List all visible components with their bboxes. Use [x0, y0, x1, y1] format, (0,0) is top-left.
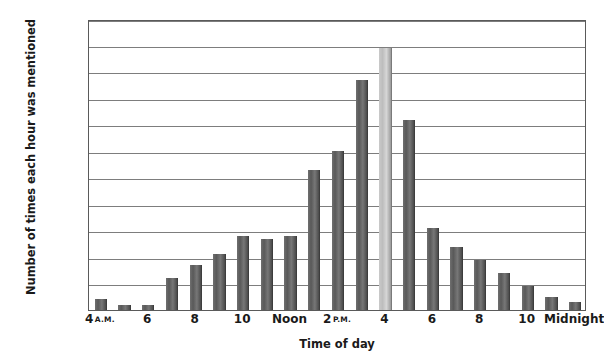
bar: [332, 151, 344, 310]
bar: [142, 305, 154, 310]
x-axis-tick-label-text: 10: [234, 312, 251, 326]
bars-group: [89, 21, 585, 310]
x-axis-tick-label-meridiem: A.M.: [95, 315, 115, 324]
bar: [427, 228, 439, 310]
bar: [284, 236, 296, 310]
x-axis-tick-label: 8: [475, 313, 483, 325]
x-axis-tick-label: 10: [234, 313, 251, 325]
x-axis-tick-label: 2P.M.: [323, 313, 351, 325]
bar: [474, 260, 486, 310]
x-axis-tick-label-text: Midnight: [544, 312, 604, 326]
x-axis-tick-label: 8: [191, 313, 199, 325]
x-axis-tick-label-text: 2: [323, 312, 331, 326]
x-axis-tick-label: Noon: [272, 313, 307, 325]
bar: [166, 278, 178, 310]
bar: [569, 302, 581, 310]
bar: [190, 265, 202, 310]
x-axis-tick-label: 4: [380, 313, 388, 325]
bar: [379, 48, 391, 310]
bar: [450, 247, 462, 310]
x-axis-title: Time of day: [88, 337, 586, 351]
x-axis-tick-label-text: 8: [475, 312, 483, 326]
x-axis-tick-label: 6: [143, 313, 151, 325]
x-axis-tick-label-text: 6: [143, 312, 151, 326]
bar: [545, 297, 557, 310]
y-axis-title: Number of times each hour was mentioned: [24, 7, 38, 307]
bar: [308, 170, 320, 310]
bar: [95, 299, 107, 310]
bar: [356, 80, 368, 310]
x-axis-tick-label: 10: [518, 313, 535, 325]
x-axis-tick-label-meridiem: P.M.: [333, 315, 351, 324]
x-axis-tick-label-text: 4: [85, 312, 93, 326]
bar: [118, 305, 130, 310]
x-axis-tick-label-text: Noon: [272, 312, 307, 326]
bar: [498, 273, 510, 310]
bar: [403, 120, 415, 310]
bar: [261, 239, 273, 310]
x-axis-tick-label-text: 10: [518, 312, 535, 326]
bar: [522, 286, 534, 310]
x-axis-tick-label-text: 6: [428, 312, 436, 326]
x-axis-tick-labels: 4A.M.6810Noon2P.M.46810Midnight: [88, 313, 586, 333]
x-axis-tick-label-text: 8: [191, 312, 199, 326]
x-axis-tick-label: 4A.M.: [85, 313, 115, 325]
bar: [213, 254, 225, 310]
x-axis-tick-label-text: 4: [380, 312, 388, 326]
x-axis-tick-label: Midnight: [544, 313, 604, 325]
bar: [237, 236, 249, 310]
x-axis-tick-label: 6: [428, 313, 436, 325]
plot-area: [88, 20, 586, 311]
